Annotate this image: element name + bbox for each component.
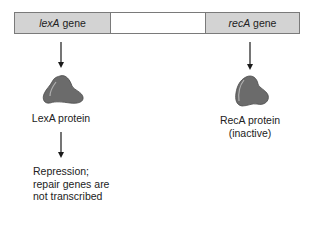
lexa-protein-icon (43, 76, 83, 104)
lexa-protein-label: LexA protein (20, 112, 102, 124)
reca-protein-label: RecA protein (205, 114, 295, 126)
arrow-down-icon (58, 42, 64, 68)
outcome-line: repair genes are (33, 178, 153, 191)
arrow-down-icon (58, 132, 64, 158)
outcome-line: Repression; (33, 165, 153, 178)
outcome-line: not transcribed (33, 190, 153, 203)
reca-protein-state: (inactive) (205, 127, 295, 139)
arrow-down-icon (247, 42, 253, 70)
reca-protein-icon (236, 76, 269, 106)
repression-outcome: Repression; repair genes are not transcr… (33, 165, 153, 203)
